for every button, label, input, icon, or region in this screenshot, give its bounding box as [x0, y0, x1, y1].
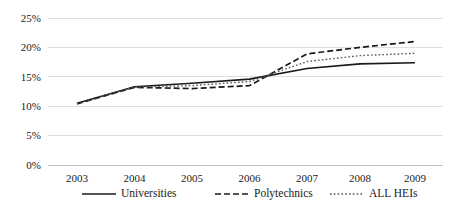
series-line-all-heis — [77, 53, 415, 103]
x-tick-label: 2007 — [296, 172, 319, 184]
line-chart: 0%5%10%15%20%25% 20032004200520062007200… — [0, 0, 459, 215]
chart-legend: UniversitiesPolytechnicsALL HEIs — [82, 187, 418, 200]
gridlines — [48, 18, 443, 165]
legend-label: ALL HEIs — [369, 187, 418, 199]
series-line-universities — [77, 63, 415, 104]
y-tick-label: 25% — [21, 12, 41, 24]
legend-label: Universities — [121, 187, 177, 199]
y-tick-label: 5% — [26, 129, 41, 141]
x-axis-tick-labels: 2003200420052006200720082009 — [66, 172, 427, 184]
y-tick-label: 20% — [21, 41, 41, 53]
series-lines — [77, 42, 415, 104]
x-tick-label: 2008 — [349, 172, 372, 184]
x-tick-label: 2005 — [181, 172, 204, 184]
legend-label: Polytechnics — [254, 187, 313, 200]
x-tick-label: 2006 — [239, 172, 262, 184]
x-tick-label: 2003 — [66, 172, 89, 184]
legend-item-all-heis[interactable]: ALL HEIs — [330, 187, 418, 199]
y-tick-label: 15% — [21, 71, 41, 83]
y-tick-label: 10% — [21, 100, 41, 112]
legend-item-polytechnics[interactable]: Polytechnics — [215, 187, 313, 200]
series-line-polytechnics — [77, 42, 415, 104]
legend-item-universities[interactable]: Universities — [82, 187, 177, 199]
y-axis-tick-labels: 0%5%10%15%20%25% — [21, 12, 41, 171]
x-tick-label: 2004 — [124, 172, 147, 184]
chart-figure: 0%5%10%15%20%25% 20032004200520062007200… — [0, 0, 459, 215]
y-tick-label: 0% — [26, 159, 41, 171]
x-tick-label: 2009 — [404, 172, 427, 184]
